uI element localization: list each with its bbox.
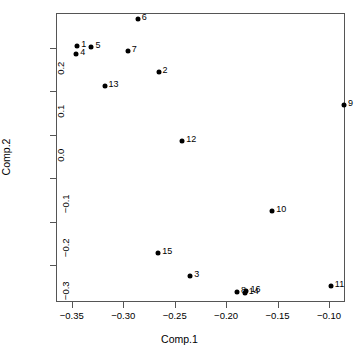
data-point: [75, 43, 80, 48]
data-point-label: 11: [335, 280, 344, 289]
data-point: [328, 284, 333, 289]
y-axis-tick-label: 0.0: [55, 135, 66, 148]
data-point: [156, 250, 161, 255]
data-point: [341, 102, 346, 107]
x-axis-tick: [278, 302, 279, 308]
x-axis-tick-label: −0.20: [214, 310, 238, 321]
data-point-label: 3: [194, 270, 199, 279]
data-point: [188, 274, 193, 279]
data-point-label: 12: [186, 135, 196, 144]
data-point-label: 10: [276, 205, 286, 214]
y-axis-label: Comp.2: [0, 139, 12, 176]
y-axis-tick-label: 0.2: [55, 48, 66, 61]
x-axis-tick: [123, 302, 124, 308]
x-axis-label: Comp.1: [0, 333, 359, 345]
y-axis-tick-label: 0.1: [55, 91, 66, 104]
y-axis-tick: [50, 178, 56, 179]
x-axis-tick-label: −0.25: [163, 310, 187, 321]
data-point: [180, 139, 185, 144]
x-axis-tick: [72, 302, 73, 308]
data-point-label: 9: [348, 99, 353, 108]
y-axis-tick: [50, 222, 56, 223]
data-point: [156, 70, 161, 75]
data-point-label: 16: [250, 285, 260, 294]
x-axis-tick: [226, 302, 227, 308]
x-axis-tick-label: −0.15: [266, 310, 290, 321]
data-point: [235, 290, 240, 295]
data-point-label: 15: [162, 247, 172, 256]
data-point: [125, 49, 130, 54]
data-point: [135, 16, 140, 21]
data-point-label: 4: [80, 48, 85, 57]
x-axis-tick: [329, 302, 330, 308]
data-point-label: 7: [132, 45, 137, 54]
x-axis-tick: [175, 302, 176, 308]
data-point-label: 2: [163, 66, 168, 75]
scatter-plot: −0.35−0.30−0.25−0.20−0.15−0.10−0.3−0.2−0…: [0, 0, 359, 358]
y-axis-tick: [50, 265, 56, 266]
data-point-label: 5: [95, 41, 100, 50]
data-point: [102, 83, 107, 88]
y-axis-tick-label: −0.1: [60, 178, 71, 197]
y-axis-tick-label: −0.2: [60, 222, 71, 241]
data-point: [74, 52, 79, 57]
x-axis-tick-label: −0.10: [317, 310, 341, 321]
data-point-label: 6: [142, 13, 147, 22]
x-axis-tick-label: −0.30: [111, 310, 135, 321]
data-point: [270, 209, 275, 214]
x-axis-tick-label: −0.35: [60, 310, 84, 321]
plot-frame: [56, 13, 345, 302]
data-point: [89, 45, 94, 50]
y-axis-tick-label: −0.3: [60, 265, 71, 284]
data-point-label: 13: [109, 80, 119, 89]
data-point: [244, 289, 249, 294]
